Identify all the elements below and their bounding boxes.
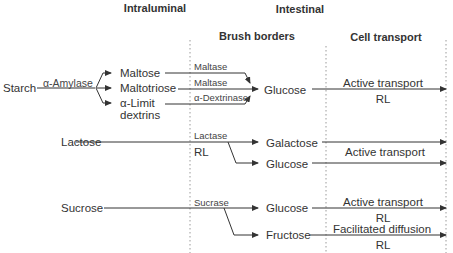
substrate-lactose: Lactose [61, 136, 101, 148]
product-glucose-sucrose: Glucose [266, 202, 308, 214]
product-galactose: Galactose [266, 137, 318, 149]
enzyme-maltase-1: Maltase [194, 62, 227, 72]
transport-facilitated-diffusion: Facilitated diffusion [333, 223, 431, 235]
product-maltose: Maltose [120, 67, 160, 79]
substrate-sucrose: Sucrose [61, 202, 103, 214]
transport-active-1: Active transport [343, 77, 423, 89]
lactase-note-rl: RL [194, 146, 209, 158]
product-alpha-limit: α-Limit [120, 97, 155, 109]
enzyme-alpha-amylase: α-Amylase [43, 78, 93, 88]
product-dextrins: dextrins [120, 109, 160, 121]
result-glucose: Glucose [264, 84, 306, 96]
enzyme-maltase-2: Maltase [194, 78, 227, 88]
product-glucose-lactose: Glucose [266, 158, 308, 170]
header-cell-transport: Cell transport [350, 31, 422, 43]
enzyme-sucrase: Sucrase [194, 198, 229, 208]
product-maltotriose: Maltotriose [120, 82, 176, 94]
substrate-starch: Starch [3, 82, 36, 94]
enzyme-alpha-dextrinase: α-Dextrinase [194, 93, 248, 103]
enzyme-lactase: Lactase [194, 131, 227, 141]
transport-active-3: Active transport [343, 196, 423, 208]
header-brush-borders: Brush borders [219, 30, 295, 42]
transport-active-2: Active transport [345, 146, 425, 158]
carbohydrate-digestion-diagram: Intraluminal Intestinal Brush borders Ce… [0, 0, 453, 253]
transport-note-rl-1: RL [376, 93, 391, 105]
transport-note-rl-4: RL [376, 239, 391, 251]
header-intraluminal: Intraluminal [124, 2, 186, 14]
product-fructose: Fructose [266, 229, 311, 241]
header-intestinal: Intestinal [276, 3, 324, 15]
